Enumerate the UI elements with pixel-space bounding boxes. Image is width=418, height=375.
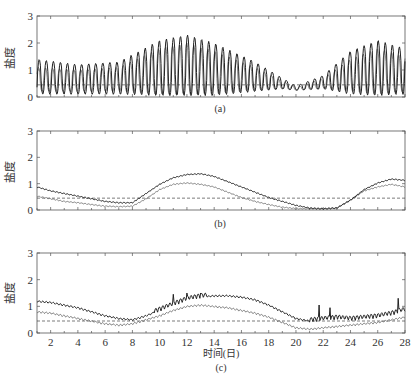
x-tick-label: 6 (102, 336, 108, 348)
y-tick-label: 2 (28, 274, 34, 286)
y-tick-label: 3 (28, 10, 34, 22)
x-tick-label: 4 (75, 336, 81, 348)
panel-b-series-lower (37, 183, 405, 210)
panel-b-label: (b) (214, 218, 226, 230)
figure: 0123 盐度 (a) 0123 盐度 (b) 0123 盐度 (0, 0, 418, 375)
x-tick-label: 20 (290, 336, 302, 348)
panel-b-ylabel: 盐度 (3, 161, 16, 183)
x-tick-label: 18 (263, 336, 275, 348)
panel-b-series-upper (37, 174, 405, 210)
panel-c-x-tick-labels: 246810121416182022242628 (48, 336, 411, 348)
y-tick-label: 3 (28, 247, 34, 259)
x-tick-label: 28 (400, 336, 412, 348)
x-tick-label: 26 (372, 336, 384, 348)
x-tick-label: 12 (181, 336, 192, 348)
x-tick-label: 24 (345, 336, 357, 348)
panel-a-ylabel: 盐度 (3, 47, 16, 69)
panel-a: 0123 盐度 (a) (3, 10, 405, 115)
y-tick-label: 1 (28, 178, 34, 190)
x-tick-label: 8 (130, 336, 136, 348)
x-axis-label: 时间(日) (203, 347, 240, 360)
y-tick-label: 1 (28, 64, 34, 76)
y-tick-label: 3 (28, 125, 34, 137)
panel-a-y-tick-labels: 0123 (28, 10, 34, 103)
x-tick-label: 14 (209, 336, 221, 348)
panel-b: 0123 盐度 (b) (3, 125, 405, 230)
panel-c-series-lower (37, 305, 405, 330)
panel-c: 0123 盐度 246810121416182022242628 时间(日) (… (3, 247, 411, 374)
panel-c-y-tick-labels: 0123 (28, 247, 34, 339)
x-tick-label: 16 (236, 336, 248, 348)
x-tick-label: 2 (48, 336, 54, 348)
y-tick-label: 2 (28, 37, 34, 49)
x-tick-label: 22 (318, 336, 329, 348)
panel-c-label: (c) (215, 362, 226, 374)
y-tick-label: 0 (28, 204, 34, 216)
y-tick-label: 0 (28, 327, 34, 339)
figure-svg: 0123 盐度 (a) 0123 盐度 (b) 0123 盐度 (0, 0, 418, 375)
y-tick-label: 2 (28, 151, 34, 163)
y-tick-label: 1 (28, 300, 34, 312)
y-tick-label: 0 (28, 91, 34, 103)
panel-c-ylabel: 盐度 (3, 282, 16, 304)
panel-a-series-dark (37, 35, 405, 96)
panel-a-label: (a) (214, 103, 225, 115)
panel-b-y-tick-labels: 0123 (28, 125, 34, 216)
x-tick-label: 10 (154, 336, 166, 348)
